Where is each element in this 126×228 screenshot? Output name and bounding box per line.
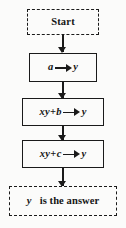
flowchart-node-answer[interactable]: y is the answer (9, 186, 117, 216)
flowchart-node-assign-xy-plus-b-label: xy + b y (40, 107, 87, 118)
flowchart-node-assign-xy-plus-c-label: xy + c y (40, 149, 86, 160)
math-target-y: y (82, 107, 87, 118)
math-operator-plus: + (50, 149, 57, 160)
rightwards-arrow-icon (63, 108, 80, 117)
answer-subject: y (27, 195, 32, 206)
arrow-head-icon (58, 47, 66, 53)
math-target-y: y (81, 149, 86, 160)
math-operand-xy: xy (40, 149, 50, 160)
flowchart-node-assign-a[interactable]: a y (29, 53, 97, 82)
flowchart-diagram: Start a y xy + b y (0, 0, 126, 228)
rightwards-arrow-icon (55, 63, 72, 72)
answer-predicate (34, 195, 37, 206)
flowchart-node-answer-label: y is the answer (27, 196, 100, 207)
rightwards-arrow-icon (63, 150, 80, 159)
flowchart-node-assign-xy-plus-b[interactable]: xy + b y (22, 98, 104, 126)
math-operand-c: c (57, 149, 62, 160)
flowchart-node-start[interactable]: Start (27, 9, 99, 35)
math-operand-b: b (56, 107, 61, 118)
math-operand-xy: xy (40, 107, 50, 118)
math-operator-plus: + (50, 107, 57, 118)
math-operand-a: a (48, 62, 53, 73)
flowchart-node-assign-xy-plus-c[interactable]: xy + c y (22, 140, 104, 168)
answer-predicate-text: is the answer (40, 195, 100, 206)
math-target-y: y (73, 62, 78, 73)
flowchart-node-start-label: Start (51, 17, 75, 28)
flowchart-node-assign-a-label: a y (48, 62, 78, 73)
